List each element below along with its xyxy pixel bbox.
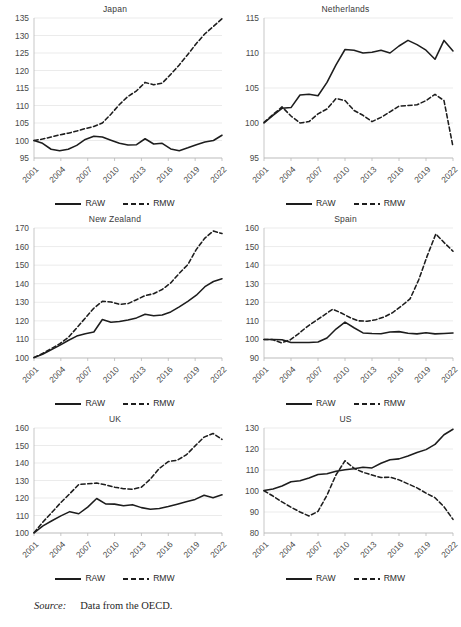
svg-text:2019: 2019 xyxy=(181,539,201,559)
legend-swatch-dashed xyxy=(354,578,380,580)
chart-svg-us: 8090100110120130200120042007201020132016… xyxy=(230,410,461,585)
chart-svg-new-zealand: 1001101201301401501601702001200420072010… xyxy=(0,210,230,410)
svg-text:100: 100 xyxy=(15,528,29,538)
legend-swatch-solid xyxy=(55,203,81,205)
svg-text:2013: 2013 xyxy=(358,164,378,184)
svg-text:2019: 2019 xyxy=(181,364,201,384)
svg-text:120: 120 xyxy=(15,493,29,503)
svg-text:2013: 2013 xyxy=(358,364,378,384)
svg-text:170: 170 xyxy=(15,223,29,233)
legend-entry-rmw: RMW xyxy=(123,399,174,408)
svg-text:80: 80 xyxy=(250,528,260,538)
plot-area: 9510010511011512012513013520012004200720… xyxy=(0,0,230,210)
svg-text:100: 100 xyxy=(15,353,29,363)
panel-grid: Japan 9510010511011512012513013520012004… xyxy=(0,0,461,585)
svg-text:110: 110 xyxy=(246,465,260,475)
panel-netherlands: Netherlands 9510010511011520012004200720… xyxy=(230,0,461,210)
legend-entry-raw: RAW xyxy=(55,574,105,583)
legend-swatch-solid xyxy=(55,578,81,580)
svg-text:130: 130 xyxy=(15,31,29,41)
legend-swatch-dashed xyxy=(354,403,380,405)
legend-swatch-solid xyxy=(286,403,312,405)
legend-entry-rmw: RMW xyxy=(123,574,174,583)
legend: RAW RMW xyxy=(0,399,230,408)
svg-text:2010: 2010 xyxy=(101,364,121,384)
svg-text:2004: 2004 xyxy=(277,164,297,184)
svg-text:2016: 2016 xyxy=(154,539,174,559)
svg-text:160: 160 xyxy=(245,223,259,233)
chart-svg-spain: 9010011012013014015016020012004200720102… xyxy=(230,210,461,410)
svg-text:2013: 2013 xyxy=(128,364,148,384)
svg-text:120: 120 xyxy=(245,297,259,307)
legend-swatch-dashed xyxy=(123,403,149,405)
plot-area: 1001101201301401501601702001200420072010… xyxy=(0,210,230,410)
svg-text:2007: 2007 xyxy=(304,364,324,384)
svg-text:95: 95 xyxy=(250,153,260,163)
svg-text:2007: 2007 xyxy=(74,539,94,559)
svg-text:120: 120 xyxy=(15,66,29,76)
svg-text:2013: 2013 xyxy=(128,164,148,184)
legend-label-raw: RAW xyxy=(85,399,105,408)
legend-label-raw: RAW xyxy=(316,199,336,208)
svg-text:130: 130 xyxy=(245,279,259,289)
legend-label-rmw: RMW xyxy=(384,574,405,583)
svg-text:100: 100 xyxy=(245,486,259,496)
svg-text:2007: 2007 xyxy=(74,164,94,184)
svg-text:2001: 2001 xyxy=(20,364,40,384)
svg-text:2007: 2007 xyxy=(74,364,94,384)
svg-text:2022: 2022 xyxy=(208,364,228,384)
svg-text:110: 110 xyxy=(16,511,30,521)
svg-text:130: 130 xyxy=(15,297,29,307)
legend-label-rmw: RMW xyxy=(384,199,405,208)
svg-text:130: 130 xyxy=(15,476,29,486)
legend-entry-rmw: RMW xyxy=(354,199,405,208)
svg-text:2007: 2007 xyxy=(304,539,324,559)
svg-text:2019: 2019 xyxy=(412,364,432,384)
svg-text:2013: 2013 xyxy=(358,539,378,559)
svg-text:2016: 2016 xyxy=(385,364,405,384)
svg-text:110: 110 xyxy=(246,48,260,58)
legend-label-raw: RAW xyxy=(316,574,336,583)
svg-text:2010: 2010 xyxy=(101,539,121,559)
svg-text:115: 115 xyxy=(246,13,260,23)
svg-text:2019: 2019 xyxy=(412,164,432,184)
svg-text:100: 100 xyxy=(15,136,29,146)
svg-text:2022: 2022 xyxy=(439,164,459,184)
legend-label-rmw: RMW xyxy=(153,399,174,408)
source-text: Data from the OECD. xyxy=(80,600,172,611)
svg-text:130: 130 xyxy=(245,423,259,433)
legend: RAW RMW xyxy=(230,399,461,408)
svg-text:150: 150 xyxy=(245,242,259,252)
svg-text:90: 90 xyxy=(250,507,260,517)
svg-text:2016: 2016 xyxy=(154,164,174,184)
legend-entry-rmw: RMW xyxy=(123,199,174,208)
svg-text:2004: 2004 xyxy=(277,364,297,384)
chart-svg-uk: 1001101201301401501602001200420072010201… xyxy=(0,410,230,585)
svg-text:2022: 2022 xyxy=(439,364,459,384)
legend-entry-rmw: RMW xyxy=(354,574,405,583)
svg-text:125: 125 xyxy=(15,48,29,58)
panel-uk: UK 1001101201301401501602001200420072010… xyxy=(0,410,230,585)
svg-text:2004: 2004 xyxy=(47,539,67,559)
svg-text:120: 120 xyxy=(15,316,29,326)
svg-text:2001: 2001 xyxy=(250,164,270,184)
svg-text:105: 105 xyxy=(15,118,29,128)
svg-text:2001: 2001 xyxy=(250,539,270,559)
svg-text:140: 140 xyxy=(15,458,29,468)
plot-area: 1001101201301401501602001200420072010201… xyxy=(0,410,230,585)
svg-text:120: 120 xyxy=(245,444,259,454)
svg-text:2001: 2001 xyxy=(250,364,270,384)
svg-text:2016: 2016 xyxy=(385,539,405,559)
source-label: Source: xyxy=(34,600,66,611)
svg-text:2004: 2004 xyxy=(47,164,67,184)
svg-text:2004: 2004 xyxy=(47,364,67,384)
panel-us: US 8090100110120130200120042007201020132… xyxy=(230,410,461,585)
svg-text:100: 100 xyxy=(245,118,259,128)
svg-text:2013: 2013 xyxy=(128,539,148,559)
legend-entry-raw: RAW xyxy=(286,199,336,208)
svg-text:140: 140 xyxy=(245,260,259,270)
svg-text:2010: 2010 xyxy=(101,164,121,184)
svg-text:2016: 2016 xyxy=(154,364,174,384)
svg-text:2001: 2001 xyxy=(20,539,40,559)
legend: RAW RMW xyxy=(230,199,461,208)
